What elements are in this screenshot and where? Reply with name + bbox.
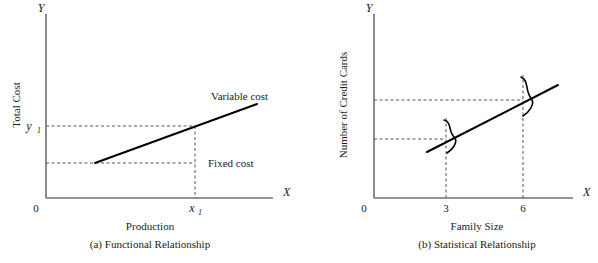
figure-two-panel-relationship: Y X 0 y 1 x 1 Variable cost Fixed cost T… bbox=[0, 0, 598, 263]
panel-a-y-axis-title: Total Cost bbox=[10, 82, 22, 127]
panel-a-origin-label: 0 bbox=[33, 202, 39, 214]
panel-a-y-tick-label: y bbox=[25, 119, 32, 133]
panel-b-plot: Y X 0 3 6 Number of Credit Cards Family … bbox=[299, 0, 598, 263]
panel-b-x-axis-title: Family Size bbox=[451, 220, 504, 232]
panel-a-fixed-cost-label: Fixed cost bbox=[208, 157, 254, 169]
panel-a-x-tick-subscript: 1 bbox=[198, 208, 202, 217]
panel-b-regression-line bbox=[427, 85, 558, 152]
panel-b-origin-label: 0 bbox=[361, 202, 367, 214]
panel-b-x-axis-letter: X bbox=[582, 185, 591, 199]
panel-a-x-axis-letter: X bbox=[282, 185, 291, 199]
panel-a-cost-line bbox=[95, 104, 257, 163]
panel-b-x-tick-3: 3 bbox=[443, 202, 449, 214]
panel-b-y-axis-letter: Y bbox=[366, 1, 374, 15]
panel-b-y-axis-title: Number of Credit Cards bbox=[337, 52, 349, 159]
panel-b-caption: (b) Statistical Relationship bbox=[418, 238, 536, 251]
panel-statistical-relationship: Y X 0 3 6 Number of Credit Cards Family … bbox=[299, 0, 598, 263]
panel-a-caption: (a) Functional Relationship bbox=[90, 238, 211, 251]
panel-a-variable-cost-label: Variable cost bbox=[211, 90, 268, 102]
panel-a-y-axis-letter: Y bbox=[38, 1, 46, 15]
panel-functional-relationship: Y X 0 y 1 x 1 Variable cost Fixed cost T… bbox=[0, 0, 299, 263]
panel-a-plot: Y X 0 y 1 x 1 Variable cost Fixed cost T… bbox=[0, 0, 299, 263]
panel-a-x-axis-title: Production bbox=[126, 220, 175, 232]
panel-a-x-tick-label: x bbox=[188, 201, 195, 215]
panel-b-x-tick-6: 6 bbox=[520, 202, 526, 214]
panel-a-y-tick-subscript: 1 bbox=[37, 126, 41, 135]
